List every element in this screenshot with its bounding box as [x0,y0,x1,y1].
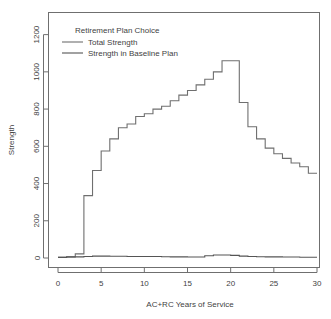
x-tick-label: 30 [313,279,322,288]
y-tick-label: 1000 [33,62,42,80]
series-line-1 [58,255,317,257]
chart-legend: Retirement Plan ChoiceTotal StrengthStre… [62,26,178,58]
series-line-0 [58,61,317,257]
x-tick-label: 25 [269,279,278,288]
legend-title: Retirement Plan Choice [75,26,160,35]
x-axis-title: AC+RC Years of Service [146,300,234,309]
y-tick-label: 0 [33,255,42,260]
x-tick-label: 0 [56,279,61,288]
y-tick-label: 1200 [33,25,42,43]
x-axis: 051015202530 [56,268,322,289]
x-tick-label: 5 [99,279,104,288]
legend-label-0: Total Strength [88,38,137,47]
y-tick-label: 400 [33,176,42,190]
chart-figure: 020040060080010001200 051015202530 Retir… [0,0,331,319]
x-tick-label: 10 [140,279,149,288]
legend-label-1: Strength in Baseline Plan [88,49,178,58]
y-axis: 020040060080010001200 [33,25,49,260]
data-series-group [58,61,317,258]
x-tick-label: 20 [226,279,235,288]
y-tick-label: 200 [33,214,42,228]
y-tick-label: 600 [33,139,42,153]
y-axis-title: Strength [7,125,16,155]
chart-canvas: 020040060080010001200 051015202530 Retir… [0,0,331,319]
y-tick-label: 800 [33,102,42,116]
x-tick-label: 15 [183,279,192,288]
